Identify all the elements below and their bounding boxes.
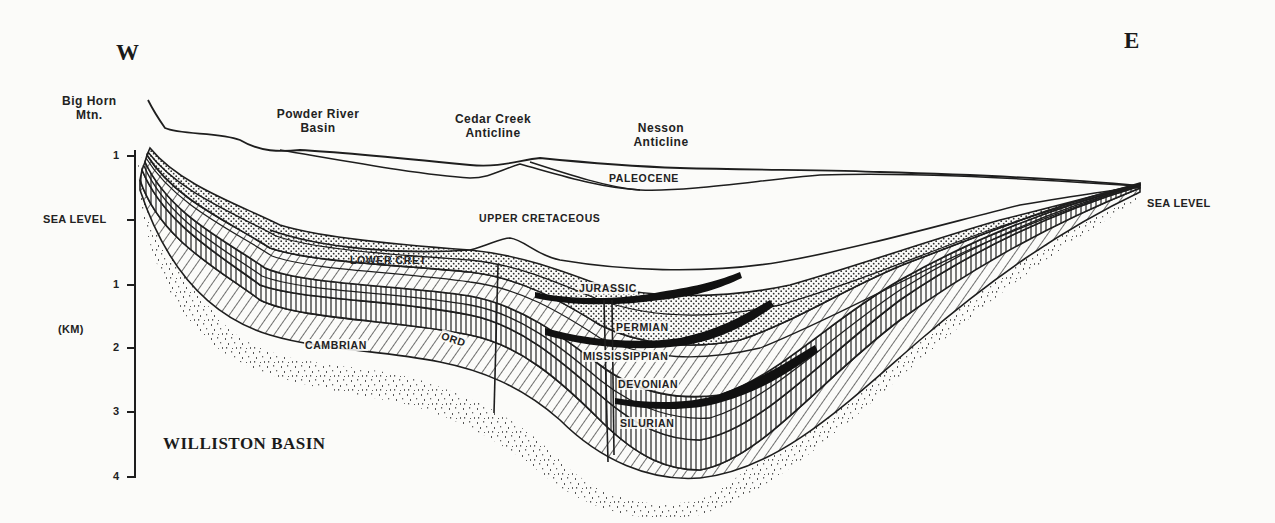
axis-sea-level-label: SEA LEVEL — [43, 213, 106, 225]
axis-tick-label: 2 — [113, 341, 119, 353]
formation-jurassic: JURASSIC — [578, 282, 638, 294]
place-nesson-anticline: Nesson Anticline — [616, 122, 706, 150]
formation-lower-cret: LOWER CRET — [350, 254, 427, 266]
cross-section-figure: W E Big Horn Mtn. Powder River Basin Ced… — [0, 0, 1275, 523]
east-label: E — [1124, 28, 1139, 54]
axis-tick-label: 1 — [113, 278, 119, 290]
paleocene-surface — [280, 150, 1140, 190]
formation-silurian: SILURIAN — [619, 417, 675, 429]
formation-devonian: DEVONIAN — [617, 378, 679, 390]
place-cedar-creek-anticline: Cedar Creek Anticline — [438, 113, 548, 141]
formation-mississippian: MISSISSIPPIAN — [582, 350, 669, 362]
depth-axis — [127, 150, 135, 478]
formation-upper-cretaceous: UPPER CRETACEOUS — [479, 212, 600, 224]
formation-permian: PERMIAN — [615, 321, 670, 333]
diagram-title: WILLISTON BASIN — [163, 434, 326, 454]
axis-tick-label: 1 — [113, 149, 119, 161]
place-powder-river-basin: Powder River Basin — [266, 108, 370, 136]
axis-unit-label: (KM) — [58, 323, 84, 335]
axis-tick-label: 4 — [113, 470, 119, 482]
formation-cambrian: CAMBRIAN — [304, 339, 368, 351]
axis-tick-label: 3 — [113, 405, 119, 417]
right-sea-level-label: SEA LEVEL — [1147, 197, 1210, 209]
west-label: W — [116, 40, 139, 66]
formation-paleocene: PALEOCENE — [609, 172, 679, 184]
place-big-horn-mtn: Big Horn Mtn. — [62, 95, 117, 123]
